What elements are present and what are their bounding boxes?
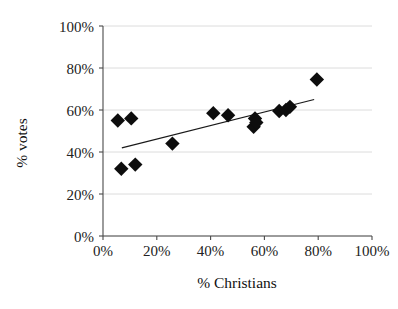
data-point-marker (111, 113, 125, 127)
scatter-plot: 0%20%40%60%80%100% 0%20%40%60%80%100% % … (0, 0, 398, 309)
y-tick-label: 60% (67, 103, 95, 119)
x-tick-label: 40% (197, 243, 225, 259)
y-tick-label: 100% (59, 19, 94, 35)
x-axis-title: % Christians (197, 274, 277, 291)
x-tick-label: 80% (304, 243, 332, 259)
data-point-marker (114, 162, 128, 176)
gridlines-group (103, 26, 372, 236)
x-tick-labels-group: 0%20%40%60%80%100% (93, 243, 390, 259)
x-tick-marks-group (103, 236, 372, 240)
data-point-marker (124, 111, 138, 125)
data-point-marker (206, 106, 220, 120)
y-tick-label: 80% (67, 61, 95, 77)
chart-figure: 0%20%40%60%80%100% 0%20%40%60%80%100% % … (0, 0, 398, 309)
y-tick-label: 20% (67, 187, 95, 203)
y-tick-marks-group (99, 26, 103, 236)
y-tick-label: 40% (67, 145, 95, 161)
axes-group (103, 26, 372, 236)
x-tick-label: 20% (143, 243, 171, 259)
data-point-marker (310, 72, 324, 86)
y-tick-label: 0% (74, 229, 94, 245)
x-tick-label: 60% (251, 243, 279, 259)
x-tick-label: 100% (355, 243, 390, 259)
y-axis-title: % votes (13, 118, 30, 168)
data-point-marker (128, 157, 142, 171)
data-point-marker (165, 136, 179, 150)
x-tick-label: 0% (93, 243, 113, 259)
y-tick-labels-group: 0%20%40%60%80%100% (59, 19, 94, 245)
